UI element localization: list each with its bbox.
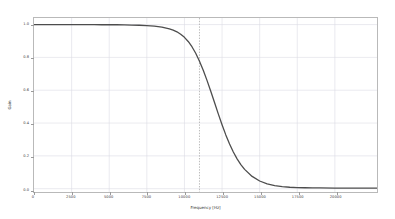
x-tick-label: 17500 (292, 195, 304, 199)
y-axis-label: Gain (7, 100, 12, 109)
frequency-response-chart: 02500500075001000012500150001750020000 0… (0, 0, 395, 219)
y-tick-label: 0.6 (29, 88, 35, 92)
y-tick-label: 0.4 (29, 121, 35, 125)
plot-area (33, 17, 378, 193)
y-tick-label: 0.8 (29, 55, 35, 59)
x-tick-label: 7500 (142, 195, 152, 199)
x-tick-label: 0 (32, 195, 34, 199)
x-tick-label: 2500 (66, 195, 76, 199)
y-tick-label: 1.0 (29, 22, 35, 26)
y-tick-label-text: 0.8 (23, 55, 29, 59)
x-tick-label: 20000 (330, 195, 342, 199)
x-axis-label: Frequency [Hz] (33, 205, 378, 210)
x-tick-label: 5000 (104, 195, 114, 199)
y-tick-label-text: 0.4 (23, 121, 29, 125)
x-tick-label: 10000 (178, 195, 190, 199)
y-tick-label: 0.2 (29, 154, 35, 158)
y-tick-label-text: 0.0 (23, 188, 29, 192)
y-tick-label: 0.0 (29, 188, 35, 192)
y-tick-label-text: 0.6 (23, 88, 29, 92)
y-tick-label-text: 0.2 (23, 154, 29, 158)
gain-curve (34, 18, 377, 192)
y-tick-label-text: 1.0 (23, 22, 29, 26)
x-tick-label: 15000 (254, 195, 266, 199)
x-tick-label: 12500 (216, 195, 228, 199)
